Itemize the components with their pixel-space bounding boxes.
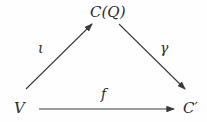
arrow-gamma xyxy=(119,24,185,89)
label-iota: ι xyxy=(38,40,44,56)
commutative-diagram: C(Q) V C′ ι γ f xyxy=(0,0,207,122)
node-cq: C(Q) xyxy=(90,3,125,21)
label-gamma: γ xyxy=(160,40,168,56)
label-f: f xyxy=(101,86,106,102)
node-v: V xyxy=(14,99,25,117)
arrow-iota xyxy=(26,24,92,89)
node-c-prime: C′ xyxy=(183,99,198,117)
